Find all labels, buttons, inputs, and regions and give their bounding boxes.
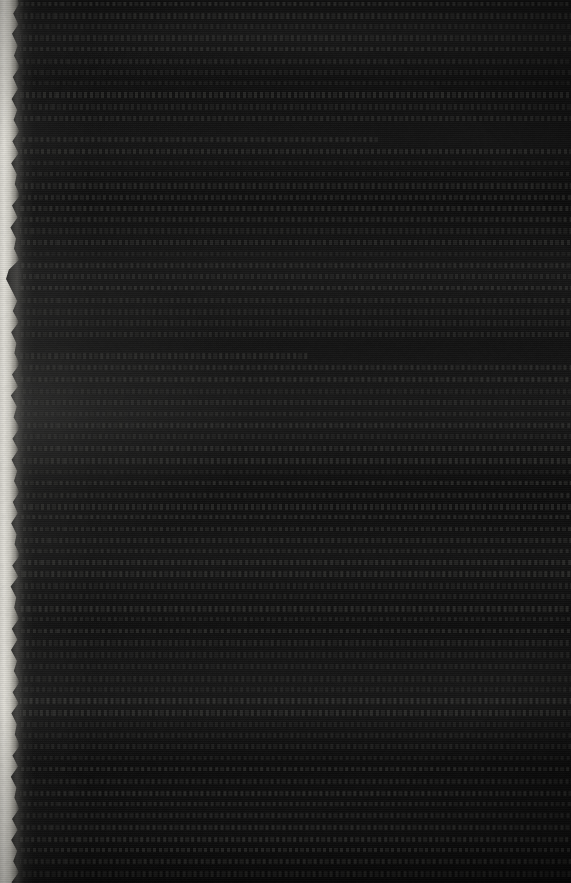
text-line bbox=[20, 652, 571, 658]
text-line bbox=[20, 687, 571, 692]
text-line bbox=[20, 446, 571, 451]
text-line bbox=[20, 35, 571, 41]
text-line bbox=[20, 92, 571, 98]
text-line bbox=[20, 434, 571, 438]
text-line bbox=[20, 710, 571, 716]
photograph-frame bbox=[0, 0, 571, 883]
text-line bbox=[20, 676, 571, 682]
text-line bbox=[20, 412, 571, 416]
text-line bbox=[20, 802, 571, 806]
text-line bbox=[20, 104, 571, 109]
text-line bbox=[20, 423, 571, 428]
text-line bbox=[20, 24, 571, 29]
text-line bbox=[20, 640, 571, 646]
text-line bbox=[20, 320, 571, 326]
text-line bbox=[20, 538, 571, 543]
text-line bbox=[20, 756, 571, 761]
text-line bbox=[20, 377, 571, 383]
text-line bbox=[20, 493, 571, 499]
text-line bbox=[20, 733, 571, 739]
text-line bbox=[20, 848, 571, 852]
text-line bbox=[20, 365, 571, 371]
text-line bbox=[20, 527, 571, 532]
text-line bbox=[20, 252, 571, 257]
text-line bbox=[20, 837, 571, 843]
text-line bbox=[20, 332, 571, 337]
text-line bbox=[20, 274, 571, 279]
text-line bbox=[20, 791, 571, 797]
text-line bbox=[20, 871, 571, 877]
text-line bbox=[20, 458, 571, 464]
text-line bbox=[20, 606, 571, 612]
text-line bbox=[20, 47, 571, 51]
text-line bbox=[20, 195, 571, 201]
text-line bbox=[20, 470, 571, 474]
text-line bbox=[20, 504, 571, 510]
text-line bbox=[20, 698, 571, 703]
text-line bbox=[20, 217, 571, 222]
text-line bbox=[20, 206, 571, 211]
text-line bbox=[20, 70, 571, 76]
text-line bbox=[20, 389, 571, 394]
text-line bbox=[20, 481, 571, 485]
text-block bbox=[20, 0, 571, 883]
text-line bbox=[20, 617, 571, 622]
text-line bbox=[20, 549, 571, 554]
text-line bbox=[20, 722, 571, 728]
text-line bbox=[20, 859, 571, 864]
text-line bbox=[20, 298, 571, 304]
text-line bbox=[20, 149, 571, 154]
text-line bbox=[20, 2, 571, 6]
text-line bbox=[20, 571, 571, 577]
text-line bbox=[20, 744, 571, 749]
text-line bbox=[20, 183, 571, 189]
text-line bbox=[20, 286, 571, 290]
text-line bbox=[20, 172, 571, 176]
text-line bbox=[20, 400, 571, 405]
text-line bbox=[20, 228, 571, 234]
text-line bbox=[20, 116, 571, 121]
text-line bbox=[20, 825, 571, 830]
text-line bbox=[20, 629, 571, 633]
text-line bbox=[20, 161, 571, 166]
text-line bbox=[20, 263, 571, 269]
text-line bbox=[20, 81, 571, 85]
text-line bbox=[20, 137, 378, 142]
text-line bbox=[20, 594, 571, 599]
text-line bbox=[20, 664, 571, 669]
text-line bbox=[20, 240, 571, 245]
text-line bbox=[20, 13, 571, 19]
text-line bbox=[20, 353, 310, 359]
text-line bbox=[20, 59, 571, 64]
paper-edge-highlight bbox=[0, 0, 20, 883]
text-line bbox=[20, 309, 571, 315]
text-line bbox=[20, 779, 571, 784]
text-line bbox=[20, 583, 571, 589]
text-line bbox=[20, 560, 571, 565]
illuminated-paper-edge bbox=[0, 0, 34, 883]
text-line bbox=[20, 813, 571, 818]
text-line bbox=[20, 767, 571, 771]
text-line bbox=[20, 515, 571, 519]
